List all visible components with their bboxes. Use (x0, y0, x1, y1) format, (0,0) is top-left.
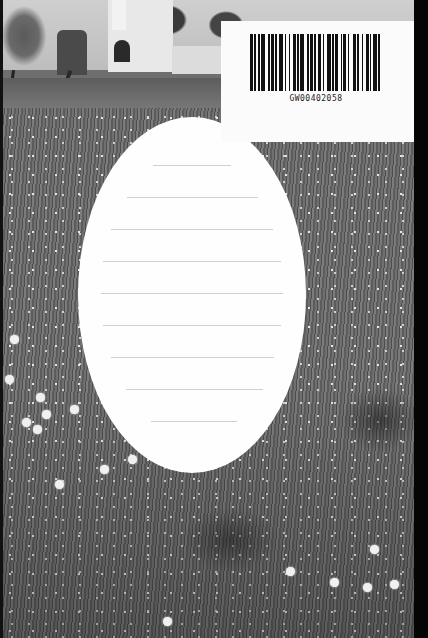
daisy-flower (22, 418, 31, 427)
white-wall (172, 46, 222, 74)
barcode-number: GW00402058 (221, 94, 411, 103)
ruled-line (101, 293, 283, 294)
daisy-flower (163, 617, 172, 626)
daisy-flower (330, 578, 339, 587)
ruled-line (103, 261, 281, 262)
ruled-line (153, 165, 231, 166)
daisy-flower (390, 580, 399, 589)
barcode-gap (380, 34, 383, 91)
scan-edge (0, 0, 3, 638)
ruled-line (111, 229, 273, 230)
daisy-flower (363, 583, 372, 592)
daisy-flower (10, 335, 19, 344)
title-label-oval (78, 117, 306, 473)
ruled-line (126, 389, 263, 390)
ruled-line (151, 421, 237, 422)
daisy-flower (70, 405, 79, 414)
daisy-flower (42, 410, 51, 419)
scan-border-right (414, 0, 428, 638)
ruled-line (103, 325, 281, 326)
ruled-line (111, 357, 274, 358)
barcode-sticker: GW00402058 (221, 21, 427, 142)
ruled-line (127, 197, 258, 198)
daisy-flower (128, 455, 137, 464)
daisy-flower (286, 567, 295, 576)
daisy-flower (5, 375, 14, 384)
building-arch-doorway (114, 40, 130, 62)
barcode (250, 34, 383, 91)
daisy-flower (100, 465, 109, 474)
olive-tree (0, 0, 60, 90)
daisy-flower (55, 480, 64, 489)
daisy-flower (33, 425, 42, 434)
daisy-flower (36, 393, 45, 402)
dark-doorway (57, 30, 87, 75)
daisy-flower (370, 545, 379, 554)
building-chimney (112, 0, 126, 30)
